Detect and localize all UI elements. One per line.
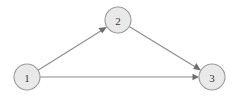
- graph-node-2-label: 2: [115, 15, 121, 27]
- edge-2-to-3-line: [130, 27, 199, 69]
- graph-canvas: 1 2 3: [0, 0, 235, 98]
- graph-node-1-label: 1: [24, 72, 30, 84]
- edge-1-to-2-arrowhead: [98, 27, 107, 33]
- graph-node-3[interactable]: 3: [199, 64, 225, 90]
- edge-1-to-3-arrowhead: [193, 74, 200, 80]
- edge-1-to-3[interactable]: [40, 74, 199, 80]
- edge-2-to-3-arrowhead: [193, 63, 201, 70]
- edge-1-to-2-line: [38, 29, 104, 71]
- edge-1-to-2[interactable]: [38, 27, 107, 70]
- graph-node-3-label: 3: [209, 72, 215, 84]
- graph-drawing: 1 2 3: [0, 0, 235, 98]
- graph-node-1[interactable]: 1: [14, 64, 40, 90]
- graph-node-2[interactable]: 2: [105, 7, 131, 33]
- edge-2-to-3[interactable]: [130, 27, 201, 71]
